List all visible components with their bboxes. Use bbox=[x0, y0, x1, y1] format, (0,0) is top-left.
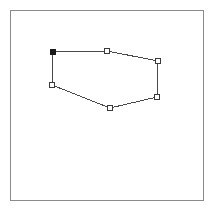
vertex-bottom-right[interactable] bbox=[155, 95, 160, 100]
vertex-anchor-top-left[interactable] bbox=[51, 50, 56, 55]
polygon-shape-layer bbox=[0, 0, 214, 210]
vertex-bottom-middle[interactable] bbox=[108, 106, 113, 111]
polygon-outline[interactable] bbox=[52, 51, 158, 108]
vertex-top-right[interactable] bbox=[156, 59, 161, 64]
vertex-top-middle[interactable] bbox=[105, 49, 110, 54]
vertex-left-middle[interactable] bbox=[50, 83, 55, 88]
canvas-root bbox=[0, 0, 214, 210]
